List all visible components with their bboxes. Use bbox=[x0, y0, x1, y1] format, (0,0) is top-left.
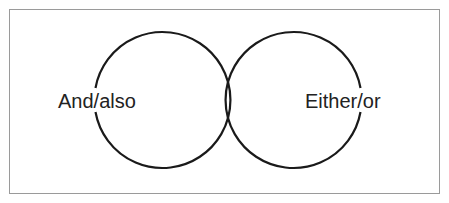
left-circle-label: And/also bbox=[58, 90, 136, 112]
diagram-canvas: And/also Either/or bbox=[0, 0, 449, 203]
right-circle-label: Either/or bbox=[305, 90, 381, 112]
